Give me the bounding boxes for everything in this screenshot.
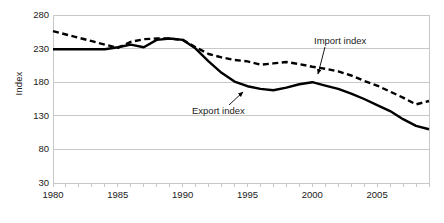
leader-export: [229, 92, 243, 105]
chart-container: Index 3080130180230280 19801985199019952…: [0, 0, 444, 223]
x-axis-ticks: [53, 183, 429, 187]
axis-lines: [53, 15, 429, 183]
annotation-export-index: Export index: [192, 105, 245, 116]
annotation-leader-lines: [229, 47, 325, 105]
gridlines: [53, 15, 429, 183]
annotation-import-index: Import index: [314, 35, 366, 46]
leader-import: [318, 47, 325, 74]
